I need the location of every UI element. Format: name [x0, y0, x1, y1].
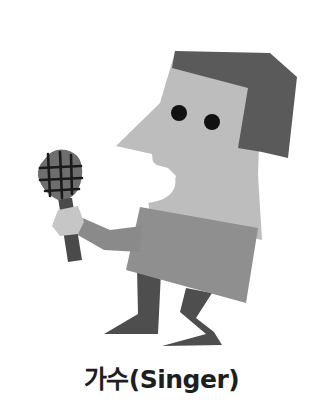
right-eye [204, 114, 220, 130]
left-leg [104, 268, 161, 334]
left-eye [171, 105, 187, 121]
caption-label: 가수(Singer) [0, 360, 323, 400]
microphone-icon [38, 149, 82, 200]
singer-illustration [0, 0, 323, 404]
right-leg [162, 288, 222, 346]
hand [52, 206, 84, 236]
arm [76, 216, 142, 252]
